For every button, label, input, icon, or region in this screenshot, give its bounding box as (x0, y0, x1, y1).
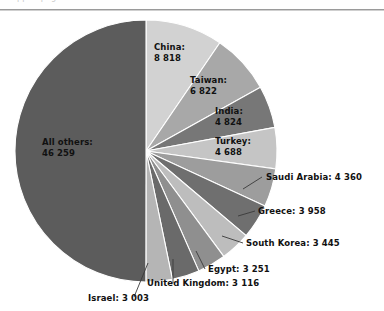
cropped-header-text: cropped page header text (4, 0, 113, 2)
pie-chart: China: 8 818 Taiwan: 6 822 India: 4 824 … (0, 11, 384, 311)
slice-label-saudi-arabia: Saudi Arabia: 4 360 (266, 172, 362, 183)
slice-label-israel: Israel: 3 003 (88, 293, 149, 304)
slice-label-taiwan-name: Taiwan: (190, 75, 227, 85)
slice-label-all-others: All others: 46 259 (42, 137, 93, 158)
slice-label-all-others-value: 46 259 (42, 148, 93, 159)
screenshot-root: cropped page header text China: 8 818 Ta… (0, 0, 384, 311)
page-header-strip: cropped page header text (0, 0, 384, 11)
slice-label-all-others-name: All others: (42, 137, 93, 147)
slice-label-india-value: 4 824 (215, 117, 243, 128)
slice-label-united-kingdom: United Kingdom: 3 116 (147, 278, 259, 289)
slice-label-china: China: 8 818 (154, 42, 185, 63)
slice-label-china-value: 8 818 (154, 53, 185, 64)
slice-label-turkey-name: Turkey: (215, 136, 251, 146)
pie-chart-svg (0, 11, 384, 311)
slice-label-greece: Greece: 3 958 (258, 206, 326, 217)
slice-label-turkey: Turkey: 4 688 (215, 136, 251, 157)
slice-label-south-korea: South Korea: 3 445 (246, 238, 340, 249)
slice-label-india-name: India: (215, 106, 243, 116)
slice-label-turkey-value: 4 688 (215, 147, 251, 158)
slice-label-taiwan: Taiwan: 6 822 (190, 75, 227, 96)
slice-label-egypt: Egypt: 3 251 (208, 264, 270, 275)
slice-label-taiwan-value: 6 822 (190, 86, 227, 97)
slice-label-china-name: China: (154, 42, 185, 52)
slice-label-india: India: 4 824 (215, 106, 243, 127)
